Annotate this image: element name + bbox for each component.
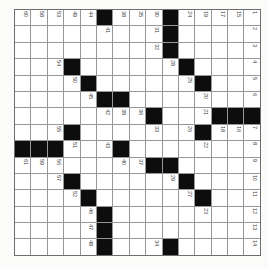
grid-cell[interactable]: 1 [244,10,259,25]
grid-cell[interactable] [113,43,128,58]
grid-cell[interactable]: 55 [48,125,63,140]
grid-cell[interactable] [31,207,46,222]
grid-cell[interactable] [64,26,79,41]
grid-cell[interactable]: 39 [113,108,128,123]
grid-cell[interactable] [195,43,210,58]
grid-cell[interactable]: 60 [15,10,30,25]
grid-cell[interactable] [15,59,30,74]
grid-cell[interactable] [163,190,178,205]
grid-cell[interactable] [130,207,145,222]
grid-cell[interactable] [130,174,145,189]
grid-cell[interactable] [163,141,178,156]
grid-cell[interactable] [195,174,210,189]
grid-cell[interactable] [31,92,46,107]
grid-cell[interactable] [146,92,161,107]
grid-cell[interactable] [146,223,161,238]
grid-cell[interactable] [15,76,30,91]
grid-cell[interactable]: 14 [244,239,259,254]
grid-cell[interactable] [228,76,243,91]
grid-cell[interactable]: 28 [163,59,178,74]
grid-cell[interactable]: 30 [146,10,161,25]
grid-cell[interactable] [146,141,161,156]
grid-cell[interactable]: 37 [130,158,145,173]
grid-cell[interactable]: 42 [97,108,112,123]
grid-cell[interactable]: 11 [244,190,259,205]
grid-cell[interactable] [81,43,96,58]
grid-cell[interactable] [97,43,112,58]
grid-cell[interactable] [97,76,112,91]
grid-cell[interactable]: 57 [48,174,63,189]
grid-cell[interactable] [113,207,128,222]
grid-cell[interactable] [113,223,128,238]
grid-cell[interactable] [64,239,79,254]
grid-cell[interactable] [212,190,227,205]
grid-cell[interactable]: 61 [15,158,30,173]
grid-cell[interactable]: 21 [195,108,210,123]
grid-cell[interactable] [15,125,30,140]
grid-cell[interactable] [81,26,96,41]
grid-cell[interactable] [15,108,30,123]
grid-cell[interactable]: 5 [244,76,259,91]
grid-cell[interactable] [31,108,46,123]
grid-cell[interactable] [31,59,46,74]
grid-cell[interactable] [81,108,96,123]
grid-cell[interactable] [212,92,227,107]
grid-cell[interactable] [195,239,210,254]
grid-cell[interactable]: 25 [179,76,194,91]
grid-cell[interactable] [179,108,194,123]
grid-cell[interactable] [228,59,243,74]
grid-cell[interactable] [15,190,30,205]
grid-cell[interactable] [113,76,128,91]
grid-cell[interactable] [130,223,145,238]
grid-cell[interactable] [64,43,79,58]
grid-cell[interactable] [228,239,243,254]
grid-cell[interactable] [130,26,145,41]
grid-cell[interactable] [15,207,30,222]
grid-cell[interactable] [15,174,30,189]
grid-cell[interactable] [97,158,112,173]
grid-cell[interactable]: 20 [195,92,210,107]
grid-cell[interactable] [163,108,178,123]
grid-cell[interactable] [15,223,30,238]
grid-cell[interactable]: 32 [146,43,161,58]
grid-cell[interactable] [31,76,46,91]
grid-cell[interactable]: 10 [244,174,259,189]
grid-cell[interactable] [146,207,161,222]
grid-cell[interactable] [146,76,161,91]
grid-cell[interactable] [113,174,128,189]
grid-cell[interactable] [163,125,178,140]
grid-cell[interactable] [97,59,112,74]
grid-cell[interactable]: 41 [97,26,112,41]
grid-cell[interactable]: 53 [48,10,63,25]
grid-cell[interactable] [130,190,145,205]
grid-cell[interactable] [212,76,227,91]
grid-cell[interactable]: 24 [179,10,194,25]
grid-cell[interactable] [15,43,30,58]
grid-cell[interactable]: 31 [146,26,161,41]
grid-cell[interactable] [212,26,227,41]
grid-cell[interactable]: 16 [228,125,243,140]
grid-cell[interactable]: 15 [228,10,243,25]
grid-cell[interactable] [130,59,145,74]
grid-cell[interactable]: 38 [113,10,128,25]
grid-cell[interactable] [48,207,63,222]
grid-cell[interactable] [15,92,30,107]
grid-cell[interactable] [179,158,194,173]
grid-cell[interactable]: 49 [64,10,79,25]
grid-cell[interactable]: 52 [64,190,79,205]
grid-cell[interactable] [212,158,227,173]
grid-cell[interactable] [130,92,145,107]
grid-cell[interactable]: 2 [244,26,259,41]
grid-cell[interactable] [228,26,243,41]
grid-cell[interactable] [228,223,243,238]
grid-cell[interactable] [113,125,128,140]
grid-cell[interactable] [31,223,46,238]
grid-cell[interactable] [48,43,63,58]
grid-cell[interactable]: 58 [31,10,46,25]
grid-cell[interactable] [97,125,112,140]
grid-cell[interactable] [48,76,63,91]
grid-cell[interactable] [48,92,63,107]
grid-cell[interactable] [179,239,194,254]
grid-cell[interactable] [228,207,243,222]
grid-cell[interactable]: 26 [179,125,194,140]
